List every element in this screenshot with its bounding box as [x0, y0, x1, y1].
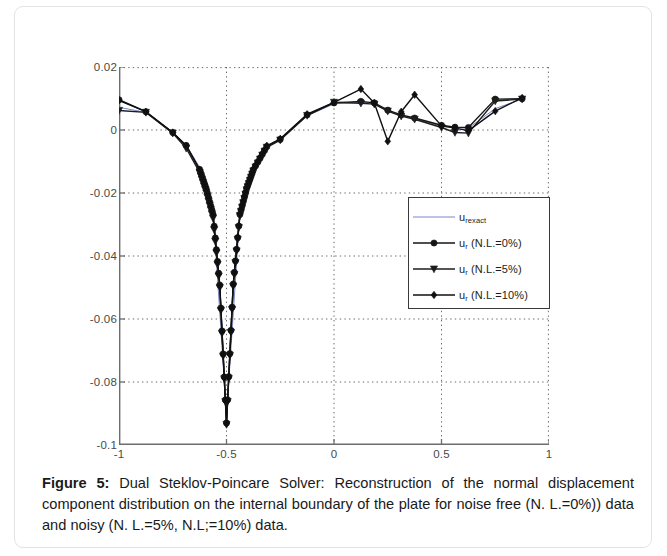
- figure-caption: Figure 5: Dual Steklov-Poincare Solver: …: [42, 473, 634, 536]
- legend-label: urexact: [459, 211, 486, 223]
- x-tick-label: 1: [546, 448, 553, 460]
- x-tick-label: -0.5: [216, 448, 237, 460]
- legend-item: urexact: [409, 204, 549, 230]
- y-tick-label: -0.04: [90, 250, 117, 262]
- legend-line-sample: [409, 258, 459, 280]
- chart-legend: urexactur (N.L.=0%)ur (N.L.=5%)ur (N.L.=…: [408, 197, 550, 309]
- y-tick-label: 0.02: [94, 61, 117, 73]
- x-tick-label: 0.5: [433, 448, 450, 460]
- x-tick-label: 0: [331, 448, 338, 460]
- y-tick-label: 0: [110, 124, 117, 136]
- legend-line-sample: [409, 232, 459, 254]
- legend-item: ur (N.L.=5%): [409, 256, 549, 282]
- y-tick-label: -0.02: [90, 187, 117, 199]
- legend-item: ur (N.L.=10%): [409, 282, 549, 308]
- figure-caption-label: Figure 5: [42, 475, 105, 491]
- legend-line-sample: [409, 206, 459, 228]
- x-axis-tick-labels: -1-0.500.51: [119, 448, 549, 468]
- y-tick-label: -0.06: [90, 313, 117, 325]
- y-tick-label: -0.08: [90, 376, 117, 388]
- legend-line-sample: [409, 284, 459, 306]
- legend-label: ur (N.L.=0%): [459, 237, 522, 249]
- legend-item: ur (N.L.=0%): [409, 230, 549, 256]
- figure-card: 0.020-0.02-0.04-0.06-0.08-0.1 -1-0.500.5…: [14, 6, 652, 548]
- figure-caption-text: Dual Steklov-Poincare Solver: Reconstruc…: [42, 475, 634, 533]
- y-axis-tick-labels: 0.020-0.02-0.04-0.06-0.08-0.1: [55, 67, 117, 445]
- x-tick-label: -1: [114, 448, 125, 460]
- legend-label: ur (N.L.=5%): [459, 263, 522, 275]
- legend-label: ur (N.L.=10%): [459, 289, 528, 301]
